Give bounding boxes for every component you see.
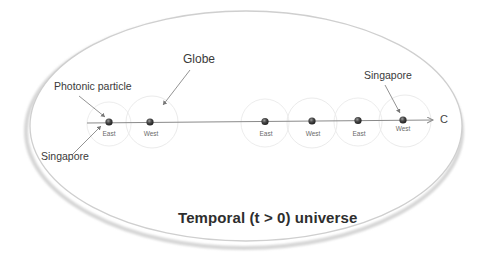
node-label: West xyxy=(396,126,411,133)
universe-diagram: Globe Photonic particle Singapore Singap… xyxy=(0,0,477,253)
diagram-title: Temporal (t > 0) universe xyxy=(178,210,357,225)
globe-label: Globe xyxy=(183,53,215,65)
node-label: West xyxy=(144,131,159,138)
sphere-icon xyxy=(399,116,406,123)
node-label: East xyxy=(352,131,365,138)
sphere-icon xyxy=(105,118,112,125)
node-label: West xyxy=(306,131,321,138)
axis-end-label: C xyxy=(440,114,448,125)
photonic-particle-label: Photonic particle xyxy=(54,81,132,92)
node-label: East xyxy=(259,131,272,138)
sphere-icon xyxy=(354,117,361,124)
singapore-right-label: Singapore xyxy=(364,70,412,81)
sphere-icon xyxy=(261,118,268,125)
sphere-icon xyxy=(146,118,153,125)
sphere-icon xyxy=(308,117,315,124)
node-label: East xyxy=(102,131,115,138)
singapore-left-label: Singapore xyxy=(41,151,89,162)
